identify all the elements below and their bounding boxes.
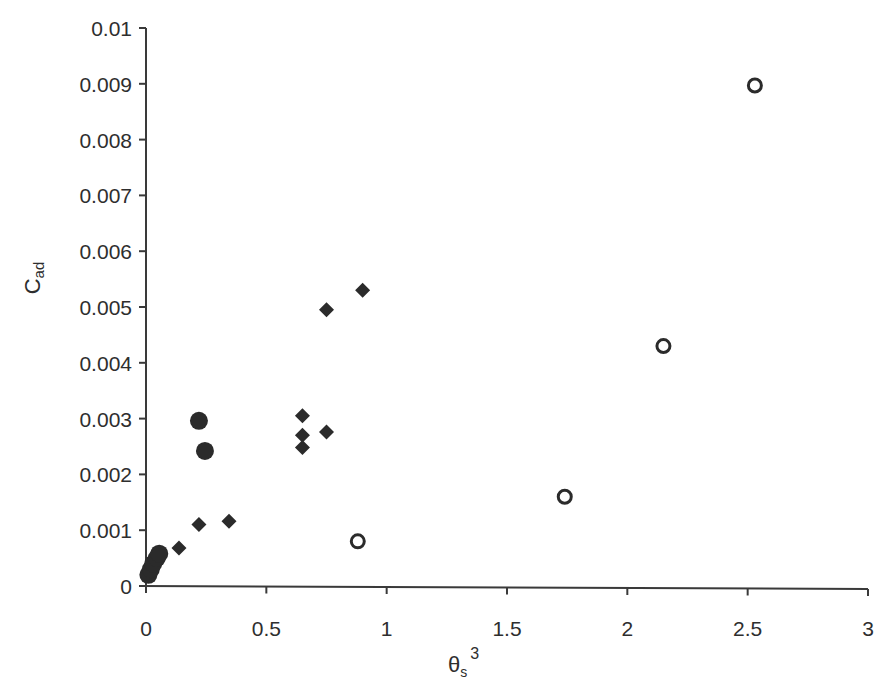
x-tick-label: 2 [621,617,633,640]
y-tick-label: 0.009 [79,73,132,96]
diamond-marker [295,440,310,455]
diamond-marker [171,541,186,556]
y-tick-label: 0.008 [79,129,132,152]
open-circle-marker [748,79,761,92]
data-points [139,79,761,584]
open-circle-marker [657,340,670,353]
diamond-marker [355,283,370,298]
y-tick-label: 0.006 [79,240,132,263]
diamond-marker [319,302,334,317]
x-tick-label: 0.5 [252,617,281,640]
x-tick-label: 3 [862,617,874,640]
x-axis-line [139,586,868,589]
diamond-marker [319,424,334,439]
y-axis: 00.0010.0020.0030.0040.0050.0060.0070.00… [79,17,146,598]
x-tick-label: 2.5 [733,617,762,640]
y-tick-label: 0.01 [91,17,132,40]
filled-circle-marker [190,412,208,430]
y-tick-label: 0.004 [79,352,132,375]
x-tick-label: 0 [140,617,152,640]
filled-circle-marker [150,545,168,563]
x-axis-title: θs3 [448,645,479,680]
y-tick-label: 0 [120,575,132,598]
x-axis: 00.511.522.53 [139,586,874,640]
y-tick-label: 0.002 [79,463,132,486]
x-tick-label: 1.5 [492,617,521,640]
open-circle-marker [351,535,364,548]
y-tick-label: 0.007 [79,184,132,207]
y-axis-title: Cad [20,262,47,295]
scatter-chart: 00.0010.0020.0030.0040.0050.0060.0070.00… [0,0,891,697]
diamond-marker [295,408,310,423]
y-tick-label: 0.005 [79,296,132,319]
diamond-marker [222,514,237,529]
diamond-marker [191,517,206,532]
y-tick-label: 0.003 [79,408,132,431]
x-tick-label: 1 [381,617,393,640]
y-tick-label: 0.001 [79,519,132,542]
open-circle-marker [558,490,571,503]
filled-circle-marker [196,442,214,460]
